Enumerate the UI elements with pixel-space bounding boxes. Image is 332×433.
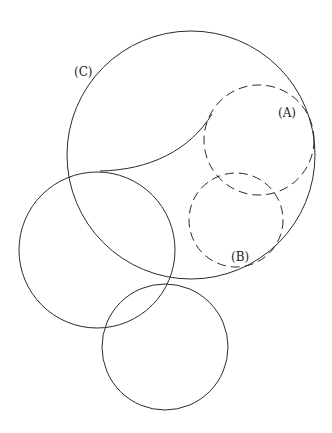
circle-bottom (102, 284, 228, 410)
diagram-canvas: (C) (A) (B) (0, 0, 332, 433)
circle-left (19, 172, 175, 328)
connecting-curve (100, 114, 212, 171)
label-a: (A) (278, 106, 296, 120)
label-b: (B) (231, 250, 249, 264)
label-c: (C) (74, 65, 93, 79)
